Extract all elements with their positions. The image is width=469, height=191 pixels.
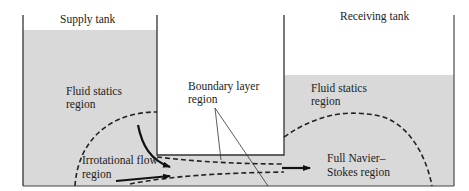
navier-stokes-label-line2: Stokes region (327, 166, 390, 179)
fluid-statics-left-label-line2: region (66, 98, 95, 111)
fluid-statics-right-label-line2: region (311, 95, 340, 108)
receiving-tank-label: Receiving tank (340, 10, 409, 23)
irrotational-flow-label-line1: Irrotational flow (82, 154, 158, 167)
navier-stokes-label-line1: Full Navier– (327, 152, 385, 165)
boundary-layer-label-line1: Boundary layer (188, 80, 259, 93)
irrotational-flow-label-line2: region (82, 168, 111, 181)
boundary-layer-label-line2: region (188, 93, 217, 106)
fluid-statics-left-label-line1: Fluid statics (66, 85, 122, 98)
supply-tank-label: Supply tank (60, 13, 115, 26)
fluid-statics-right-label-line1: Fluid statics (311, 82, 367, 95)
